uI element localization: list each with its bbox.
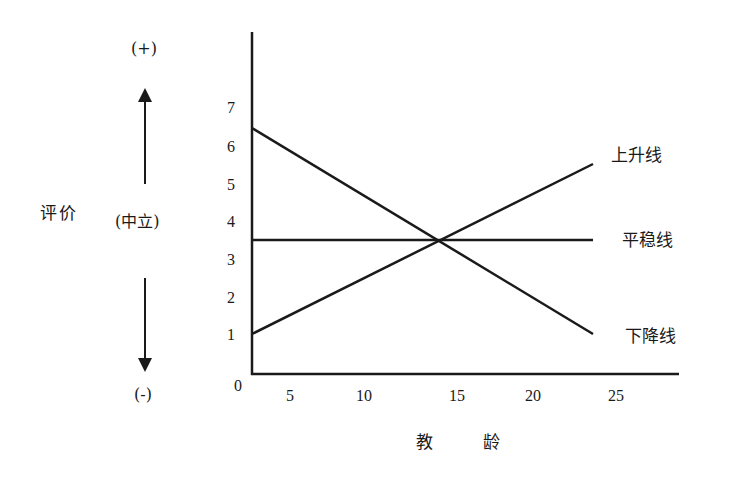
positive-label: (+) bbox=[131, 41, 157, 57]
y-tick-2: 2 bbox=[227, 290, 235, 306]
rising-line-label: 上升线 bbox=[611, 147, 662, 164]
x-axis-title-1: 教 bbox=[416, 434, 433, 451]
chart-canvas bbox=[0, 0, 729, 483]
x-tick-5: 5 bbox=[286, 388, 294, 404]
down-arrow-head-icon bbox=[138, 358, 152, 372]
y-tick-3: 3 bbox=[227, 252, 235, 268]
negative-label: (-) bbox=[134, 387, 152, 403]
x-tick-25: 25 bbox=[608, 388, 624, 404]
x-tick-15: 15 bbox=[449, 388, 465, 404]
up-arrow-head-icon bbox=[138, 88, 152, 102]
x-axis-title-2: 龄 bbox=[483, 434, 500, 451]
falling-line-label: 下降线 bbox=[625, 328, 676, 345]
y-tick-6: 6 bbox=[227, 139, 235, 155]
x-tick-20: 20 bbox=[525, 388, 541, 404]
y-tick-7: 7 bbox=[227, 100, 235, 116]
y-axis-title: 评价 bbox=[40, 203, 58, 223]
y-tick-1: 1 bbox=[227, 327, 235, 343]
neutral-label: (中立) bbox=[115, 214, 159, 230]
flat-line-label: 平稳线 bbox=[622, 232, 673, 249]
origin-label: 0 bbox=[234, 378, 242, 394]
x-tick-10: 10 bbox=[356, 388, 372, 404]
y-tick-5: 5 bbox=[227, 177, 235, 193]
y-tick-4: 4 bbox=[227, 214, 235, 230]
falling-line bbox=[252, 128, 593, 334]
rising-line bbox=[252, 164, 593, 334]
